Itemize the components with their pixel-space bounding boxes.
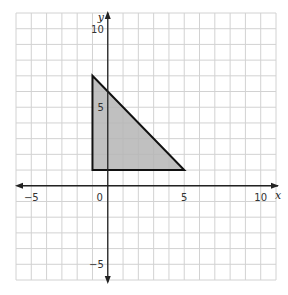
y-tick-label: 10	[91, 24, 104, 35]
x-tick-label: −5	[24, 192, 39, 203]
x-axis-label: x	[275, 189, 282, 202]
y-axis-label: y	[97, 11, 105, 24]
y-axis-up-arrow-icon	[105, 11, 111, 19]
y-tick-label: −5	[89, 259, 104, 270]
y-tick-label: 5	[97, 102, 103, 113]
x-tick-label: 10	[254, 192, 267, 203]
x-tick-label: 5	[181, 192, 187, 203]
coordinate-plane: −50510105−5 x y	[0, 0, 288, 295]
x-tick-label: 0	[97, 192, 103, 203]
